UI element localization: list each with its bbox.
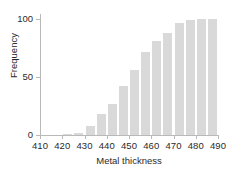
x-axis-tick-label: 450 xyxy=(121,140,137,151)
x-axis-tick-label: 430 xyxy=(77,140,93,151)
x-axis-tick-label: 480 xyxy=(188,140,204,151)
histogram-bar xyxy=(86,126,95,135)
x-axis-tick-label: 470 xyxy=(166,140,182,151)
x-axis-tick xyxy=(129,135,130,139)
x-axis-label: Metal thickness xyxy=(40,155,218,166)
y-axis-tick-label: 0 xyxy=(28,129,33,140)
histogram-bar xyxy=(141,52,150,135)
x-axis-tick xyxy=(196,135,197,139)
x-axis-tick-label: 420 xyxy=(54,140,70,151)
histogram-bar xyxy=(163,33,172,135)
x-axis-tick xyxy=(218,135,219,139)
histogram-bar xyxy=(97,114,106,135)
y-axis-tick-label: 50 xyxy=(22,71,33,82)
histogram-bar xyxy=(130,70,139,135)
y-axis-line xyxy=(40,14,41,136)
x-axis-tick xyxy=(62,135,63,139)
histogram-bar xyxy=(186,20,195,135)
plot-area: 050100 410420430440450460470480490 xyxy=(40,14,218,136)
x-axis-tick-label: 460 xyxy=(143,140,159,151)
histogram-chart: Frequency 050100 41042043044045046047048… xyxy=(0,0,233,173)
histogram-bar xyxy=(208,19,217,135)
histogram-bar xyxy=(74,133,83,135)
y-axis-label: Frequency xyxy=(8,16,19,96)
x-axis-tick-label: 440 xyxy=(99,140,115,151)
x-axis-tick xyxy=(174,135,175,139)
y-axis-tick: 100 xyxy=(36,19,40,20)
x-axis-tick xyxy=(151,135,152,139)
x-axis-tick-label: 490 xyxy=(210,140,226,151)
histogram-bar xyxy=(175,23,184,135)
y-axis-tick: 50 xyxy=(36,77,40,78)
y-axis-tick-label: 100 xyxy=(17,13,33,24)
x-axis-tick xyxy=(107,135,108,139)
histogram-bar xyxy=(63,134,72,135)
x-axis-tick-label: 410 xyxy=(32,140,48,151)
histogram-bar xyxy=(119,86,128,135)
histogram-bar xyxy=(197,19,206,135)
x-axis-tick xyxy=(40,135,41,139)
histogram-bar xyxy=(108,104,117,135)
x-axis-tick xyxy=(85,135,86,139)
histogram-bar xyxy=(152,41,161,135)
